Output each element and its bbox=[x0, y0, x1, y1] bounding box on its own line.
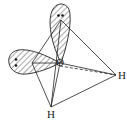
electron-dot bbox=[57, 14, 60, 17]
left-lone-pair-orbital bbox=[9, 50, 60, 74]
electron-dot bbox=[61, 14, 64, 17]
oxygen-label: O bbox=[56, 57, 64, 68]
electron-dot bbox=[15, 64, 18, 67]
top-lone-pair-orbital bbox=[50, 4, 70, 63]
hydrogen-right-label: H bbox=[118, 70, 126, 81]
water-molecule-diagram: O H H bbox=[0, 0, 127, 124]
hydrogen-bottom-label: H bbox=[47, 109, 55, 120]
electron-dot bbox=[15, 58, 18, 61]
